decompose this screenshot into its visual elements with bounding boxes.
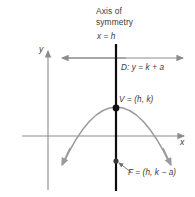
focus-point — [113, 158, 118, 163]
axis-of-symmetry-title-line1: Axis of — [96, 6, 122, 16]
x-axis-label: x — [180, 137, 184, 148]
parabola-figure: Axis of symmetry x = h D: y = k + a V = … — [0, 0, 195, 197]
axis-of-symmetry-title: Axis of symmetry — [96, 6, 133, 27]
vertex-label: V = (h, k) — [119, 95, 153, 106]
focus-label: F = (h, k − a) — [128, 168, 176, 179]
axis-of-symmetry-equation: x = h — [97, 32, 115, 43]
axis-of-symmetry-title-line2: symmetry — [96, 17, 133, 27]
directrix-equation: D: y = k + a — [121, 63, 164, 74]
y-axis-label: y — [39, 44, 43, 55]
vertex-point — [113, 105, 120, 112]
